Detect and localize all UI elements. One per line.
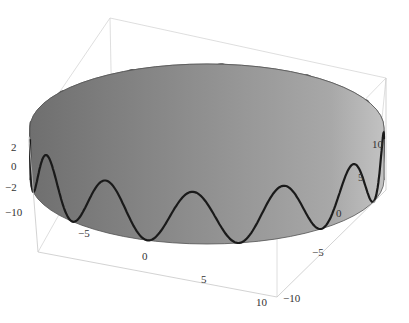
svg-text:0: 0 xyxy=(11,160,17,172)
svg-text:−10: −10 xyxy=(283,292,301,304)
svg-text:10: 10 xyxy=(372,138,384,150)
svg-text:10: 10 xyxy=(256,296,268,308)
svg-text:0: 0 xyxy=(336,207,342,219)
svg-text:2: 2 xyxy=(11,141,17,153)
svg-text:−2: −2 xyxy=(5,181,17,193)
svg-text:−5: −5 xyxy=(312,246,324,258)
svg-text:0: 0 xyxy=(142,250,148,262)
z-axis-ticks: 2 0 −2 −10 xyxy=(5,141,23,218)
svg-text:5: 5 xyxy=(201,273,207,285)
svg-text:5: 5 xyxy=(358,171,364,183)
svg-text:−5: −5 xyxy=(78,227,90,239)
3d-plot: 2 0 −2 −10 −5 0 5 10 −10 −5 0 5 10 xyxy=(0,0,409,323)
svg-text:−10: −10 xyxy=(5,206,23,218)
